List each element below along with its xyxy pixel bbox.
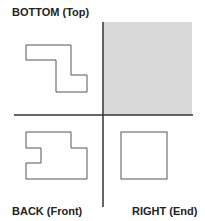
label-back-front: BACK (Front)	[12, 205, 82, 217]
shaded-quadrant	[103, 22, 192, 115]
label-right-end: RIGHT (End)	[132, 205, 197, 217]
orthographic-views	[0, 0, 205, 221]
back-front-view-shape	[26, 132, 87, 179]
bottom-top-view-shape	[26, 45, 87, 92]
right-end-view-shape	[121, 132, 167, 179]
